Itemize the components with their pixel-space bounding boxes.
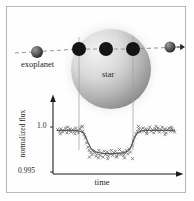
flux-data-point xyxy=(81,125,84,128)
flux-data-point xyxy=(97,149,100,152)
flux-data-point xyxy=(110,149,113,152)
flux-data-point xyxy=(155,125,158,128)
flux-data-point xyxy=(86,146,89,149)
flux-data-point xyxy=(114,150,117,153)
x-axis-arrow-icon xyxy=(176,171,184,177)
flux-data-point xyxy=(123,156,126,159)
flux-data-point xyxy=(106,157,109,160)
planet-pre-transit-icon xyxy=(31,46,43,58)
flux-data-point xyxy=(129,151,132,154)
exoplanet-transit-figure: exoplanet star time 1.0 0.995 normalized… xyxy=(0,0,194,201)
flux-data-point xyxy=(102,156,105,159)
y-tick-label-1-0: 1.0 xyxy=(37,121,46,130)
flux-data-point xyxy=(131,157,134,160)
planet-ingress-icon xyxy=(72,42,86,56)
flux-data-point xyxy=(73,132,76,135)
flux-data-point xyxy=(152,131,155,134)
planet-post-transit-icon xyxy=(165,42,176,53)
flux-data-point xyxy=(103,150,106,153)
flux-data-point xyxy=(137,125,140,128)
planet-egress-icon xyxy=(126,42,140,56)
flux-data-point xyxy=(118,148,121,151)
flux-data-point xyxy=(97,156,100,159)
flux-data-point xyxy=(173,131,176,134)
flux-data-point xyxy=(141,126,144,129)
flux-data-point xyxy=(88,156,91,159)
motion-arrow-icon xyxy=(177,45,184,50)
figure-frame: exoplanet star time 1.0 0.995 normalized… xyxy=(6,6,186,193)
x-axis-label: time xyxy=(94,177,109,187)
flux-data-point xyxy=(126,152,129,155)
flux-data-point xyxy=(163,133,166,136)
y-axis-arrow-icon xyxy=(50,95,56,103)
y-axis-label: normalized flux xyxy=(18,101,27,167)
y-tick-label-0-995: 0.995 xyxy=(18,166,35,175)
exoplanet-label: exoplanet xyxy=(21,59,54,69)
figure-stage: exoplanet star time 1.0 0.995 normalized… xyxy=(7,7,185,192)
planet-mid-transit-icon xyxy=(99,42,113,56)
star-label: star xyxy=(102,69,114,79)
transit-scene-svg xyxy=(7,7,185,192)
